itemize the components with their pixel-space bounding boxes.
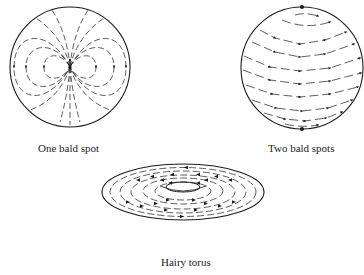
north-bald-spot <box>300 5 304 9</box>
two-bald-spots-sphere <box>241 5 363 131</box>
hairy-ball-figure <box>0 0 364 275</box>
caption-hairy-torus: Hairy torus <box>161 256 211 268</box>
caption-two-bald-spots: Two bald spots <box>268 142 334 154</box>
south-bald-spot <box>300 127 304 131</box>
hairy-torus <box>102 164 264 220</box>
one-bald-spot-sphere <box>10 7 130 127</box>
caption-one-bald-spot: One bald spot <box>38 142 99 154</box>
